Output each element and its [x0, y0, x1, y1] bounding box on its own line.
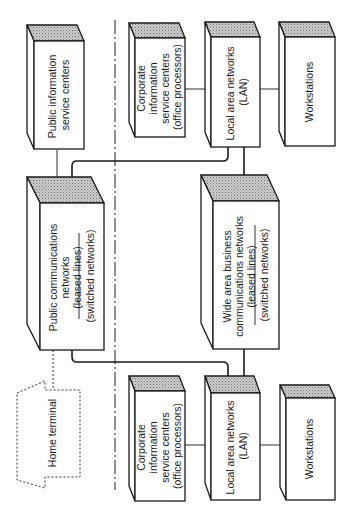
svg-text:Home terminal: Home terminal [46, 399, 58, 467]
node-local-area-networks-bottom: Local area networks (LAN) [205, 376, 260, 500]
network-diagram: Public information service centers Publi… [0, 0, 349, 520]
node-workstations-bottom: Workstations [280, 385, 335, 500]
node-public-information-service-centers: Public information service centers [27, 25, 84, 149]
node-corporate-information-service-centers-top: Corporate information service centers (o… [129, 23, 185, 137]
svg-text:Public information servi: Public information service centers [46, 52, 71, 138]
node-home-terminal: Home terminal [17, 381, 80, 488]
node-local-area-networks-top: Local area networks (LAN) [205, 22, 260, 147]
node-wide-area-business-networks: Wide area business communications networ… [201, 175, 279, 349]
svg-text:Workstations: Workstations [303, 419, 315, 480]
node-workstations-top: Workstations [279, 22, 335, 146]
node-corporate-information-service-centers-bottom: Corporate information service centers (o… [129, 376, 185, 501]
node-public-communications-networks: Public communications networks (leased l… [27, 177, 104, 350]
svg-text:Workstations: Workstations [303, 62, 315, 123]
